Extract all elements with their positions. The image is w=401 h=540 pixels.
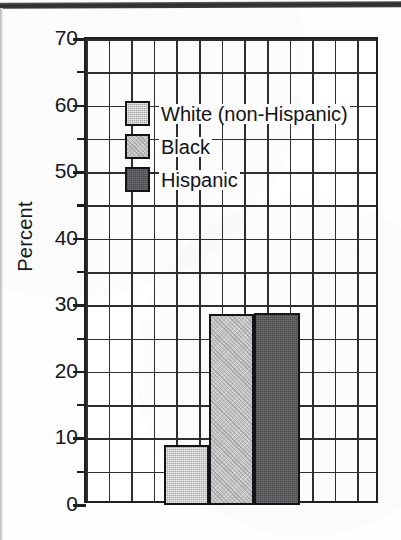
y-axis-tick-marks	[77, 39, 86, 505]
y-axis-tick-label: 30	[30, 293, 78, 314]
legend: White (non-Hispanic)BlackHispanic	[125, 97, 350, 196]
legend-swatch-fill	[127, 103, 148, 124]
y-axis-tick-label: 20	[30, 360, 78, 381]
bar	[209, 314, 254, 505]
y-axis-tick-label: 40	[30, 227, 78, 248]
legend-swatch	[125, 167, 150, 192]
bar-chart-figure: Percent 706050403020100 White (non-Hispa…	[0, 0, 401, 540]
y-axis-tick-label: 70	[30, 27, 78, 48]
legend-swatch-fill	[127, 169, 148, 190]
bar-fill	[256, 315, 297, 503]
bar-fill	[166, 447, 207, 503]
legend-swatch	[125, 134, 150, 159]
plot-area: White (non-Hispanic)BlackHispanic	[84, 37, 378, 503]
y-axis-tick-label: 0	[30, 493, 78, 514]
y-axis-tick	[77, 204, 86, 206]
y-axis-tick	[77, 338, 86, 340]
legend-label: Black	[159, 137, 212, 157]
y-axis-tick	[73, 105, 86, 108]
y-axis-tick	[77, 404, 86, 406]
legend-swatch	[125, 101, 150, 126]
y-axis-tick-label: 60	[30, 94, 78, 115]
y-axis-tick	[73, 38, 86, 41]
legend-item: Hispanic	[125, 163, 350, 196]
bar-fill	[211, 316, 252, 503]
legend-swatch-fill	[127, 136, 148, 157]
y-axis-tick	[73, 238, 86, 241]
y-axis-tick	[77, 471, 86, 473]
y-axis-tick-label: 50	[30, 160, 78, 181]
legend-item: Black	[125, 130, 350, 163]
y-axis-tick	[73, 437, 86, 440]
bar	[164, 445, 209, 505]
legend-label: White (non-Hispanic)	[159, 104, 350, 124]
legend-item: White (non-Hispanic)	[125, 97, 350, 130]
y-axis-tick	[73, 371, 86, 374]
y-axis-tick	[73, 304, 86, 307]
y-axis-tick	[73, 171, 86, 174]
bar	[254, 313, 299, 505]
y-axis-tick-label-group: 706050403020100	[30, 24, 78, 516]
legend-label: Hispanic	[159, 170, 240, 190]
y-axis-tick-label: 10	[30, 426, 78, 447]
y-axis-tick	[73, 504, 86, 507]
y-axis-tick	[77, 71, 86, 73]
y-axis-tick	[77, 138, 86, 140]
y-axis-tick	[77, 271, 86, 273]
